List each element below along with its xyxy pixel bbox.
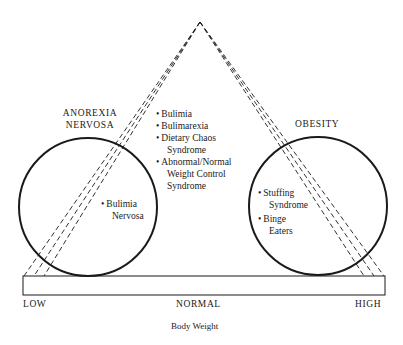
bulimia-nervosa-item: Bulimia Nervosa <box>101 198 144 222</box>
obesity-title: OBESITY <box>295 118 339 130</box>
list-item-continuation: Eaters <box>258 225 308 237</box>
list-item-continuation: Syndrome <box>258 199 308 211</box>
body-weight-bar <box>23 276 385 295</box>
center-syndrome-list: Bulimia Bulimarexia Dietary Chaos Syndro… <box>156 108 232 192</box>
list-item: Bulimia <box>156 108 232 120</box>
list-item-continuation: Syndrome <box>156 180 232 192</box>
item-line: Nervosa <box>101 210 144 222</box>
list-item: Dietary Chaos <box>156 132 232 144</box>
title-line: ANOREXIA <box>52 107 128 119</box>
item-line: Bulimia <box>101 198 144 210</box>
anorexia-nervosa-title: ANOREXIA NERVOSA <box>52 107 128 131</box>
list-item-continuation: Weight Control <box>156 168 232 180</box>
list-item: Bulimarexia <box>156 120 232 132</box>
list-item: Stuffing <box>258 187 308 199</box>
list-item: Abnormal/Normal <box>156 156 232 168</box>
list-item-continuation: Syndrome <box>156 144 232 156</box>
axis-title: Body Weight <box>171 320 218 332</box>
obesity-items: Stuffing Syndrome Binge Eaters <box>258 187 308 237</box>
axis-normal-label: NORMAL <box>176 298 221 310</box>
list-item: Binge <box>258 213 308 225</box>
title-line: NERVOSA <box>52 119 128 131</box>
axis-low-label: LOW <box>23 298 46 310</box>
axis-high-label: HIGH <box>355 298 381 310</box>
